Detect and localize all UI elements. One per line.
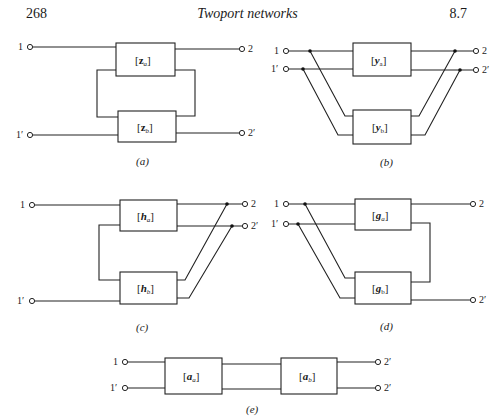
figure-c-series-parallel: [ha] [hb] 1 1′ 2 2′ (c) bbox=[17, 198, 258, 334]
terminal-label-1: 1 bbox=[274, 45, 279, 56]
terminal-2-prime bbox=[473, 67, 478, 72]
terminal-2-prime-lower bbox=[375, 385, 380, 390]
terminal-1-prime bbox=[122, 385, 127, 390]
terminal-1 bbox=[283, 48, 288, 53]
terminal-label-2: 2 bbox=[482, 45, 487, 56]
terminal-1-prime bbox=[29, 298, 34, 303]
terminal-2-prime-upper bbox=[375, 359, 380, 364]
terminal-1 bbox=[283, 201, 288, 206]
junction-dot bbox=[453, 49, 457, 53]
terminal-2 bbox=[473, 48, 478, 53]
matrix-label-ha: [ha] bbox=[137, 210, 154, 224]
matrix-label-ga: [ga] bbox=[372, 209, 388, 223]
figure-b-parallel-parallel: [ya] [yb] 1 1′ 2 2′ (b) bbox=[271, 43, 489, 169]
junction-dot bbox=[303, 202, 307, 206]
terminal-2-prime bbox=[239, 130, 244, 135]
terminal-label-1-prime: 1′ bbox=[271, 218, 278, 229]
terminal-2 bbox=[470, 201, 475, 206]
terminal-2-prime bbox=[470, 297, 475, 302]
terminal-1-prime bbox=[283, 66, 288, 71]
terminal-1-prime bbox=[283, 221, 288, 226]
terminal-label-2: 2 bbox=[248, 43, 253, 54]
terminal-2-prime bbox=[242, 223, 247, 228]
matrix-label-ab: [ab] bbox=[299, 370, 315, 384]
caption-c: (c) bbox=[136, 321, 149, 334]
terminal-label-2-prime: 2′ bbox=[482, 64, 489, 75]
figure-a-series-series: [za] [zb] 1 1′ 2 2′ (a) bbox=[16, 41, 255, 168]
terminal-label-1: 1 bbox=[113, 356, 118, 367]
terminal-label-1-prime: 1′ bbox=[271, 63, 278, 74]
matrix-label-hb: [hb] bbox=[137, 282, 154, 296]
terminal-label-2-prime: 2′ bbox=[248, 127, 255, 138]
junction-dot bbox=[458, 68, 462, 72]
junction-dot bbox=[230, 224, 234, 228]
caption-b: (b) bbox=[380, 156, 393, 169]
matrix-label-gb: [gb] bbox=[372, 282, 388, 296]
terminal-2 bbox=[239, 46, 244, 51]
terminal-label-1-prime: 1′ bbox=[16, 129, 23, 140]
terminal-label-1-prime: 1′ bbox=[17, 295, 24, 306]
terminal-1 bbox=[27, 44, 32, 49]
terminal-1 bbox=[122, 359, 127, 364]
terminal-label-2: 2 bbox=[251, 198, 256, 209]
terminal-label-2-prime-upper: 2′ bbox=[384, 356, 391, 367]
junction-dot bbox=[225, 202, 229, 206]
terminal-label-2-prime: 2′ bbox=[479, 294, 486, 305]
terminal-1 bbox=[29, 202, 34, 207]
terminal-label-1: 1 bbox=[20, 199, 25, 210]
matrix-label-yb: [yb] bbox=[372, 121, 388, 135]
junction-dot bbox=[296, 222, 300, 226]
caption-e: (e) bbox=[246, 403, 259, 416]
terminal-label-2: 2 bbox=[479, 198, 484, 209]
caption-d: (d) bbox=[380, 320, 393, 333]
terminal-label-1-prime: 1′ bbox=[110, 382, 117, 393]
matrix-label-zb: [zb] bbox=[137, 121, 153, 135]
terminal-2 bbox=[242, 201, 247, 206]
terminal-label-1: 1 bbox=[274, 198, 279, 209]
figure-e-cascade: [aa] [ab] 1 1′ 2′ 2′ (e) bbox=[110, 356, 391, 416]
terminal-label-1: 1 bbox=[18, 41, 23, 52]
twoport-interconnection-figure: [za] [zb] 1 1′ 2 2′ (a) [ya] [yb] bbox=[0, 0, 495, 418]
matrix-label-za: [za] bbox=[135, 54, 151, 68]
terminal-label-2-prime: 2′ bbox=[251, 220, 258, 231]
terminal-label-2-prime-lower: 2′ bbox=[384, 382, 391, 393]
junction-dot bbox=[301, 67, 305, 71]
junction-dot bbox=[308, 49, 312, 53]
terminal-1-prime bbox=[27, 132, 32, 137]
matrix-label-ya: [ya] bbox=[371, 54, 386, 68]
caption-a: (a) bbox=[136, 155, 149, 168]
figure-d-parallel-series: [ga] [gb] 1 1′ 2 2′ (d) bbox=[271, 198, 486, 333]
matrix-label-aa: [aa] bbox=[183, 370, 199, 384]
